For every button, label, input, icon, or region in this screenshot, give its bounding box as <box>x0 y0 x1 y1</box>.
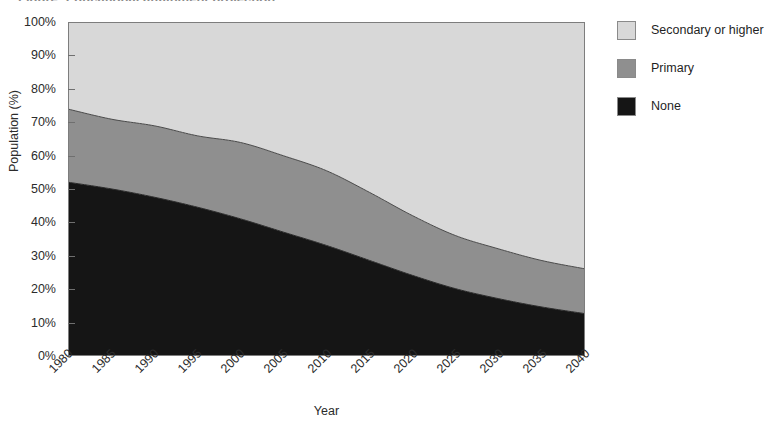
y-tick-mark <box>68 89 75 90</box>
y-tick-label: 10% <box>31 316 56 330</box>
y-tick-mark <box>68 222 75 223</box>
y-tick-mark <box>68 122 75 123</box>
legend-item: Secondary or higher <box>617 20 782 40</box>
y-tick-label: 60% <box>31 149 56 163</box>
y-tick-label: 90% <box>31 48 56 62</box>
y-tick-mark <box>68 289 75 290</box>
plot-area <box>68 22 585 356</box>
legend-item: None <box>617 96 782 116</box>
y-tick-label: 70% <box>31 115 56 129</box>
y-tick-label: 80% <box>31 82 56 96</box>
y-tick-label: 30% <box>31 249 56 263</box>
y-tick-mark <box>68 256 75 257</box>
legend-swatch-icon <box>617 97 636 116</box>
y-tick-mark <box>68 55 75 56</box>
legend-item-label: Primary <box>651 61 694 75</box>
legend-item-label: Secondary or higher <box>651 23 764 37</box>
y-axis-title: Population (%) <box>7 31 21 231</box>
legend-swatch-icon <box>617 21 636 40</box>
legend-item: Primary <box>617 58 782 78</box>
y-tick-mark <box>68 156 75 157</box>
y-tick-label: 50% <box>31 182 56 196</box>
y-tick-label: 40% <box>31 215 56 229</box>
legend-swatch-icon <box>617 59 636 78</box>
figure-title-cropped: Figure: Educational attainment projectio… <box>18 0 275 1</box>
legend: Secondary or higherPrimaryNone <box>617 20 782 134</box>
stacked-area-svg <box>69 23 584 355</box>
chart-figure: Figure: Educational attainment projectio… <box>0 0 782 430</box>
x-axis-title: Year <box>68 404 585 418</box>
y-tick-label: 20% <box>31 282 56 296</box>
legend-item-label: None <box>651 99 681 113</box>
y-tick-label: 100% <box>24 15 56 29</box>
y-tick-mark <box>68 323 75 324</box>
y-tick-mark <box>68 189 75 190</box>
